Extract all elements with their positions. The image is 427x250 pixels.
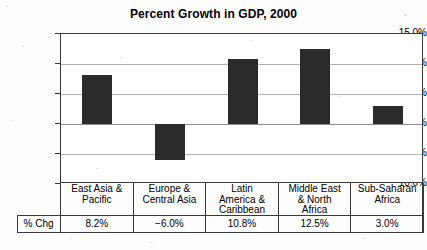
scan-artifact: [12, 120, 14, 121]
scan-artifact: [300, 196, 302, 197]
scan-artifact: [404, 14, 407, 16]
scan-artifact: [6, 6, 8, 7]
table-column-divider: [423, 183, 424, 233]
scan-artifact: [250, 40, 252, 41]
table-category-header-line: Africa: [302, 205, 328, 216]
table-category-header-line: Sub-Saharan: [358, 184, 417, 195]
scan-artifact: [362, 238, 365, 239]
table-category-header-line: Latin: [231, 184, 253, 195]
scan-artifact: [70, 238, 72, 239]
table-value-cell: 12.5%: [279, 216, 351, 232]
plot-area: [60, 33, 423, 183]
table-value-cell: 8.2%: [61, 216, 133, 232]
bar: [228, 59, 258, 124]
table-category-header: East Asia &Pacific: [61, 183, 133, 215]
scan-artifact: [120, 57, 123, 58]
gridline: [61, 154, 422, 155]
bar: [82, 75, 112, 124]
table-category-header-line: Africa: [374, 195, 400, 206]
bar: [300, 49, 330, 124]
gdp-growth-bar-chart: Percent Growth in GDP, 2000 15.0%10.0%5.…: [0, 0, 427, 250]
table-category-header: Middle East& NorthAfrica: [279, 183, 351, 215]
table-value-cell: 3.0%: [351, 216, 423, 232]
table-value-cell: −6.0%: [134, 216, 206, 232]
table-category-header-line: Caribbean: [219, 205, 265, 216]
table-category-header-line: Pacific: [82, 195, 111, 206]
bar: [155, 124, 185, 160]
scan-artifact: [96, 168, 99, 169]
table-row-label: % Chg: [17, 216, 60, 232]
table-category-header-line: East Asia &: [71, 184, 122, 195]
table-category-header: Sub-SaharanAfrica: [351, 183, 423, 215]
table-category-header: LatinAmerica &Caribbean: [206, 183, 278, 215]
table-category-header: Europe &Central Asia: [134, 183, 206, 215]
table-category-header-line: Middle East: [288, 184, 340, 195]
bar: [373, 106, 403, 124]
scan-artifact: [150, 242, 153, 243]
table-category-header-line: Europe &: [149, 184, 191, 195]
scan-artifact: [338, 96, 340, 97]
scan-artifact: [22, 46, 24, 47]
data-table: % Chg East Asia &Pacific8.2%Europe &Cent…: [17, 183, 423, 233]
table-category-header-line: Central Asia: [142, 195, 196, 206]
table-value-cell: 10.8%: [206, 216, 278, 232]
table-bottom-border: [17, 232, 423, 233]
chart-title: Percent Growth in GDP, 2000: [0, 7, 427, 21]
